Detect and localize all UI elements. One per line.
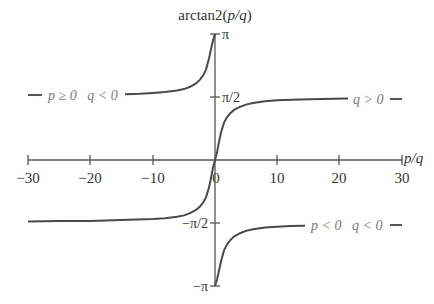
region-label-upper-right: q > 0 bbox=[353, 92, 402, 107]
svg-text:p ≥ 0 q < 0: p ≥ 0 q < 0 bbox=[47, 88, 118, 103]
arctan2-chart: arctan2(p/q) −30 −20 −10 0 10 20 30 p/q … bbox=[0, 0, 434, 304]
svg-text:p < 0 q < 0: p < 0 q < 0 bbox=[310, 218, 382, 233]
y-tick-neg-pi: −π bbox=[193, 279, 208, 294]
x-tick-label: −20 bbox=[78, 170, 101, 186]
x-tick-label: −10 bbox=[141, 170, 164, 186]
svg-text:q > 0: q > 0 bbox=[353, 92, 383, 107]
chart-title: arctan2(p/q) bbox=[178, 7, 251, 24]
x-tick-label: 20 bbox=[332, 170, 347, 186]
curve-p-negative-q-negative bbox=[215, 226, 305, 286]
region-label-upper-left: p ≥ 0 q < 0 bbox=[28, 88, 118, 103]
x-tick-label: 0 bbox=[212, 170, 220, 186]
x-tick-label: 10 bbox=[270, 170, 285, 186]
x-axis-label: p/q bbox=[403, 150, 424, 166]
x-tick-label: 30 bbox=[395, 170, 410, 186]
region-label-lower-right: p < 0 q < 0 bbox=[310, 218, 402, 233]
x-tick-label: −30 bbox=[16, 170, 39, 186]
y-tick-neg-half-pi: −π/2 bbox=[182, 216, 208, 231]
curve-p-nonneg-q-negative bbox=[125, 34, 215, 94]
y-tick-half-pi: π/2 bbox=[222, 90, 240, 105]
y-tick-pi: π bbox=[222, 27, 229, 42]
